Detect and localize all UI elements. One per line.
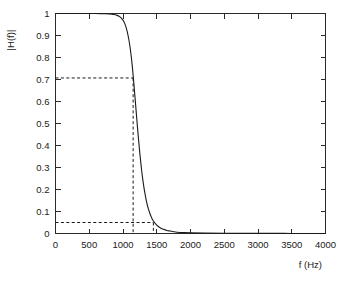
guide-lines-group [56,78,154,234]
magnitude-response-curve [56,13,326,233]
filter-response-figure: 05001000150020002500300035004000 00.10.2… [0,0,347,282]
y-tick-label: 0 [44,228,49,239]
y-tick-label: 0.7 [36,74,49,85]
x-tick-label: 2500 [214,239,235,250]
y-tick-label: 0.6 [36,96,49,107]
x-tick-label: 2000 [180,239,201,250]
y-tick-label: 0.9 [36,30,49,41]
x-tick-label: 3000 [247,239,268,250]
y-tick-label: 0.2 [36,184,49,195]
plot-frame [56,14,326,234]
y-tick-label: 0.4 [36,140,49,151]
x-tick-label: 1000 [112,239,133,250]
y-axis-tick-labels: 00.10.20.30.40.50.60.70.80.91 [36,8,49,239]
x-axis-title: f (Hz) [299,259,322,270]
y-axis-title: |H(f)| [5,30,16,51]
y-tick-label: 0.5 [36,118,49,129]
x-axis-tick-labels: 05001000150020002500300035004000 [53,239,336,250]
x-tick-label: 500 [81,239,97,250]
x-tick-label: 4000 [315,239,336,250]
y-tick-label: 0.8 [36,52,49,63]
y-tick-label: 0.1 [36,206,49,217]
x-tick-label: 0 [53,239,58,250]
x-tick-label: 3500 [281,239,302,250]
chart-canvas: 05001000150020002500300035004000 00.10.2… [0,0,347,282]
y-tick-label: 0.3 [36,162,49,173]
x-tick-label: 1500 [146,239,167,250]
y-tick-label: 1 [44,8,49,19]
tick-marks-group [56,14,326,234]
